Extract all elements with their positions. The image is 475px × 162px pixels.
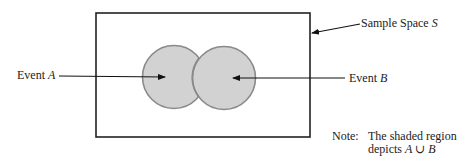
- sample-space-text: Sample Space: [361, 16, 432, 30]
- event-b-label: Event B: [349, 72, 387, 85]
- event-a-symbol: A: [48, 68, 55, 82]
- note-line-2: depicts A ∪ B: [368, 143, 436, 156]
- event-a-label: Event A: [17, 69, 55, 82]
- sample-space-symbol: S: [432, 16, 438, 30]
- event-b-text: Event: [349, 71, 380, 85]
- sample-space-arrow: [312, 24, 360, 33]
- note-prefix: Note:: [332, 130, 359, 143]
- event-b-symbol: B: [380, 71, 387, 85]
- union-expression: A ∪ B: [405, 142, 436, 156]
- event-a-text: Event: [17, 68, 48, 82]
- venn-diagram: Event A Event B Sample Space S Note: The…: [0, 0, 475, 162]
- note-line-2-text: depicts: [368, 142, 405, 156]
- sample-space-label: Sample Space S: [361, 17, 438, 30]
